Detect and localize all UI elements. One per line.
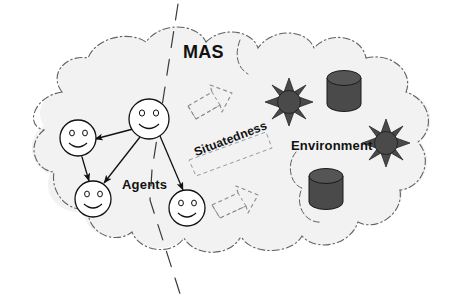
eye-left [70,130,75,136]
environment-label: Environment [291,138,373,153]
eye-right [153,110,158,116]
smiley-agent-right [169,190,205,226]
smiley-agent-bottom [75,181,111,217]
smiley-agent-top [129,99,169,139]
smiley-agent-left [60,120,96,156]
eye-right [98,191,103,197]
agents-label: Agents [122,177,167,192]
page-title: MAS [183,42,224,63]
eye-left [139,110,144,116]
eye-right [83,130,88,136]
cylinder-resource-1 [327,71,361,112]
diagram-canvas: MAS Environment Agents Situatedness [0,0,457,306]
eye-left [179,200,184,206]
eye-left [85,191,90,197]
diagram-svg [0,0,457,306]
cylinder-resource-2 [309,169,343,210]
sun-resource-1 [265,78,313,126]
eye-right [192,200,197,206]
